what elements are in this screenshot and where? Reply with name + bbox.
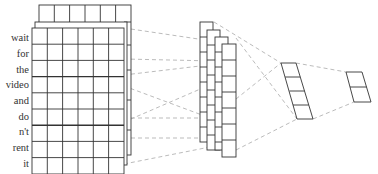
cnn-architecture-diagram: wait for the video and do n't rent it <box>0 0 378 174</box>
diagram-canvas <box>0 0 378 174</box>
embedding-layer-front <box>32 28 124 174</box>
output-layer <box>346 72 371 102</box>
dashed-connectors <box>124 22 354 164</box>
convolution-feature-maps <box>200 22 236 157</box>
input-embedding-stack <box>32 5 131 174</box>
feature-map-4 <box>222 44 236 157</box>
max-pooled-vector <box>281 63 313 119</box>
